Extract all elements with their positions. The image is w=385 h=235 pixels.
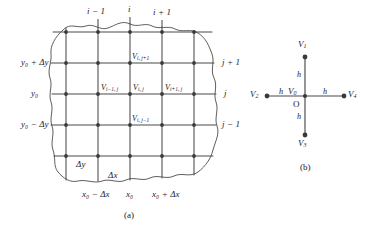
grid-node	[128, 30, 132, 34]
top-index-label-i-plus-1: i + 1	[153, 8, 171, 17]
star-label-v0-subscript: 0	[294, 90, 297, 96]
right-index-label-j-plus-1: j + 1	[222, 58, 240, 67]
node-label-east: Vi+1, j	[165, 84, 182, 93]
right-index-label-j: j	[224, 89, 227, 98]
node-label-center: Vi, j	[133, 84, 144, 93]
grid-horizontal-lines	[51, 32, 216, 156]
node-label-center-subscript: i, j	[138, 86, 144, 92]
grid-node	[64, 123, 68, 127]
grid-node	[192, 61, 196, 65]
grid-node	[128, 154, 132, 158]
grid-node	[128, 123, 132, 127]
star-label-v3: V3	[298, 139, 307, 149]
star-label-v4: V4	[348, 90, 357, 100]
star-label-v1-subscript: 1	[304, 43, 307, 49]
grid-node	[96, 123, 100, 127]
spacing-label-delta-x: Δx	[108, 171, 117, 180]
y-axis-label-y0-minus-dy: y₀ − Δy	[21, 120, 49, 129]
star-label-v1: V1	[298, 40, 307, 50]
grid-node	[96, 61, 100, 65]
node-label-west: Vi−1, j	[101, 84, 118, 93]
grid-node	[192, 123, 196, 127]
node-label-north-subscript: i, j+1	[137, 55, 149, 61]
grid-node	[192, 154, 196, 158]
grid-node	[64, 92, 68, 96]
y-axis-label-y0-plus-dy: y₀ + Δy	[21, 58, 49, 67]
figure-container: i − 1 i i + 1 j + 1 j j − 1 y₀ + Δy y₀ y…	[0, 0, 385, 235]
spacing-label-delta-y: Δy	[76, 160, 85, 169]
star-label-v0: V0	[288, 87, 297, 97]
grid-node	[192, 92, 196, 96]
node-label-north: Vi, j+1	[132, 53, 149, 62]
grid-node	[96, 92, 100, 96]
star-node-top	[303, 55, 308, 60]
grid-node	[160, 30, 164, 34]
grid-node	[160, 123, 164, 127]
star-node-bottom	[303, 133, 308, 138]
star-label-v3-subscript: 3	[304, 142, 307, 148]
figure-svg	[0, 0, 385, 235]
y-axis-label-y0: y₀	[31, 89, 38, 98]
grid-node	[96, 154, 100, 158]
star-arm-label-left: h	[279, 88, 283, 96]
grid-node	[128, 92, 132, 96]
node-label-west-subscript: i−1, j	[106, 86, 118, 92]
star-label-v4-subscript: 4	[354, 93, 357, 99]
right-index-label-j-minus-1: j − 1	[222, 120, 240, 129]
star-label-v2-subscript: 2	[256, 93, 259, 99]
node-label-south-subscript: i, j−1	[137, 117, 149, 123]
top-index-label-i-minus-1: i − 1	[87, 7, 105, 16]
grid-node	[64, 61, 68, 65]
star-stencil	[265, 55, 347, 138]
grid-node	[128, 61, 132, 65]
grid-node	[160, 61, 164, 65]
star-arm-label-top: h	[297, 71, 301, 79]
panel-caption-b: (b)	[300, 163, 311, 172]
grid-node	[96, 30, 100, 34]
grid-node	[160, 92, 164, 96]
x-axis-label-x0-plus-dx: x₀ + Δx	[152, 190, 180, 199]
node-label-east-subscript: i+1, j	[170, 86, 182, 92]
x-axis-label-x0: x₀	[126, 190, 133, 199]
star-node-left	[265, 94, 270, 99]
star-arm-label-right: h	[323, 88, 327, 96]
x-axis-label-x0-minus-dx: x₀ − Δx	[82, 190, 110, 199]
star-label-origin: O	[293, 100, 300, 109]
node-label-south: Vi, j−1	[132, 115, 149, 124]
star-node-right	[342, 94, 347, 99]
grid-node	[192, 30, 196, 34]
top-index-label-i: i	[128, 5, 131, 14]
star-label-v2: V2	[250, 90, 259, 100]
grid-node	[64, 30, 68, 34]
star-arm-label-bottom: h	[297, 113, 301, 121]
irregular-boundary-path	[49, 23, 218, 182]
grid-node	[160, 154, 164, 158]
star-node-center	[303, 94, 307, 98]
panel-caption-a: (a)	[124, 211, 134, 220]
grid-node	[64, 154, 68, 158]
